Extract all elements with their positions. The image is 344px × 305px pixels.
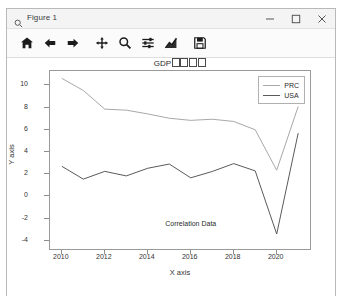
x-tick-label: 2020: [256, 253, 296, 260]
y-tick-label: 4: [0, 147, 28, 154]
figure-canvas[interactable]: GDP Y axis X axis Correlation Data PRC U…: [7, 58, 335, 297]
x-tick-mark: [276, 250, 277, 254]
chart-title-text: GDP: [154, 59, 171, 68]
minimize-button[interactable]: [257, 9, 283, 28]
y-tick-mark: [44, 107, 49, 108]
zoom-button[interactable]: [114, 32, 136, 54]
save-button[interactable]: [189, 32, 211, 54]
x-tick-label: 2010: [41, 253, 81, 260]
edit-axis-button[interactable]: [160, 32, 182, 54]
legend-swatch-prc: [263, 85, 280, 86]
navigation-toolbar: [7, 29, 335, 58]
y-tick-label: 10: [0, 80, 28, 87]
y-tick-mark: [44, 84, 49, 85]
x-tick-label: 2014: [127, 253, 167, 260]
x-tick-mark: [233, 250, 234, 254]
status-bar: [7, 294, 335, 295]
x-tick-mark: [147, 250, 148, 254]
home-button[interactable]: [16, 32, 38, 54]
legend-item: USA: [263, 90, 299, 100]
maximize-button[interactable]: [283, 9, 309, 28]
legend-label-prc: PRC: [284, 82, 299, 89]
x-tick-label: 2016: [170, 253, 210, 260]
y-tick-label: -4: [0, 236, 28, 243]
back-button[interactable]: [39, 32, 61, 54]
legend-swatch-usa: [263, 95, 280, 96]
y-tick-mark: [44, 218, 49, 219]
x-tick-mark: [104, 250, 105, 254]
plot-annotation: Correlation Data: [165, 220, 216, 227]
y-tick-label: 0: [0, 191, 28, 198]
y-tick-mark: [44, 240, 49, 241]
window-title: Figure 1: [27, 13, 57, 22]
y-tick-mark: [44, 151, 49, 152]
configure-subplots-button[interactable]: [137, 32, 159, 54]
pan-button[interactable]: [91, 32, 113, 54]
y-tick-label: 6: [0, 125, 28, 132]
figure-window: Figure 1: [6, 8, 336, 296]
y-tick-label: 8: [0, 103, 28, 110]
x-tick-mark: [61, 250, 62, 254]
title-bar: Figure 1: [7, 9, 335, 29]
y-tick-label: -2: [0, 214, 28, 221]
x-tick-label: 2018: [213, 253, 253, 260]
chart-title: GDP: [49, 58, 311, 68]
y-tick-mark: [44, 173, 49, 174]
missing-glyph-boxes: [171, 59, 206, 68]
y-tick-mark: [44, 195, 49, 196]
x-tick-label: 2012: [84, 253, 124, 260]
plot-area[interactable]: Correlation Data PRC USA: [49, 70, 311, 250]
magnifier-icon: [14, 14, 23, 23]
x-tick-mark: [190, 250, 191, 254]
close-button[interactable]: [309, 9, 335, 28]
y-tick-mark: [44, 129, 49, 130]
x-axis-label: X axis: [49, 268, 311, 277]
y-tick-label: 2: [0, 169, 28, 176]
legend-label-usa: USA: [284, 92, 298, 99]
legend-item: PRC: [263, 80, 299, 90]
forward-button[interactable]: [62, 32, 84, 54]
chart-legend: PRC USA: [258, 76, 305, 104]
